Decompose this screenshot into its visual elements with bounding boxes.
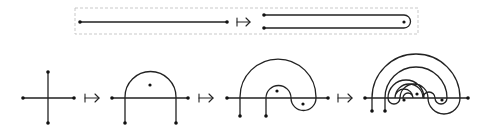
marked-point bbox=[402, 20, 405, 23]
figure-double-arc bbox=[225, 59, 330, 118]
top-row-frame bbox=[75, 8, 418, 34]
endpoint-dot bbox=[78, 20, 82, 24]
figure-cross bbox=[21, 70, 76, 125]
figure-single-arc bbox=[110, 72, 190, 125]
maps-to-arrow-icon bbox=[237, 18, 250, 26]
folded-line bbox=[264, 15, 411, 28]
figure-triple-arc bbox=[363, 54, 470, 114]
figure-segment bbox=[78, 20, 229, 24]
endpoint-dot bbox=[262, 26, 266, 30]
maps-to-arrow-icon bbox=[85, 94, 99, 102]
maps-to-arrow-icon bbox=[338, 94, 352, 102]
figure-folded-segment bbox=[262, 13, 410, 30]
maps-to-arrow-icon bbox=[199, 94, 213, 102]
endpoint-dot bbox=[262, 13, 266, 17]
diagram bbox=[0, 0, 490, 133]
endpoint-dot bbox=[225, 20, 229, 24]
